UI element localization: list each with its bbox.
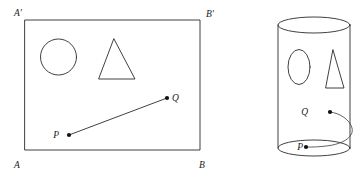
- unrolled-rectangle-panel: A' B' A B P Q: [13, 8, 215, 170]
- point-q-dot-cylinder: [328, 110, 332, 114]
- label-b: B: [199, 160, 205, 170]
- point-p-dot-cylinder: [304, 145, 308, 149]
- figure-canvas: A' B' A B P Q Q P: [0, 0, 362, 175]
- label-p-flat: P: [52, 130, 59, 140]
- geometry-figure: A' B' A B P Q Q P: [0, 0, 362, 175]
- rolled-cylinder-panel: Q P: [278, 17, 352, 156]
- narrow-triangle-shape: [326, 50, 344, 88]
- label-q-cylinder: Q: [301, 107, 308, 117]
- point-p-dot: [67, 133, 71, 137]
- cylinder-bottom-ellipse: [278, 140, 350, 156]
- label-a: A: [13, 160, 20, 170]
- cylinder-top-ellipse: [278, 17, 350, 33]
- point-q-dot: [165, 96, 169, 100]
- label-q-flat: Q: [172, 93, 179, 103]
- rectangle-outline: [25, 20, 200, 150]
- circle-shape: [41, 39, 77, 75]
- label-b-prime: B': [206, 9, 215, 19]
- triangle-shape: [99, 39, 135, 79]
- helix-curve-q-to-p: [306, 112, 352, 147]
- label-a-prime: A': [13, 8, 23, 18]
- ellipse-shape: [288, 50, 310, 85]
- label-p-cylinder: P: [296, 142, 303, 152]
- segment-p-to-q: [69, 98, 167, 135]
